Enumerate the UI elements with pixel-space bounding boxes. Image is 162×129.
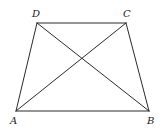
vertex-label-a: A <box>9 115 17 126</box>
diagonal-ac <box>16 23 126 111</box>
vertex-label-d: D <box>31 8 40 19</box>
side-bc <box>126 23 149 111</box>
vertex-label-b: B <box>146 115 154 126</box>
trapezoid-diagram: A B C D <box>0 0 162 129</box>
diagonal-bd <box>37 23 149 111</box>
diagram-svg: A B C D <box>0 0 162 129</box>
vertex-label-c: C <box>123 8 131 19</box>
side-da <box>16 23 37 111</box>
